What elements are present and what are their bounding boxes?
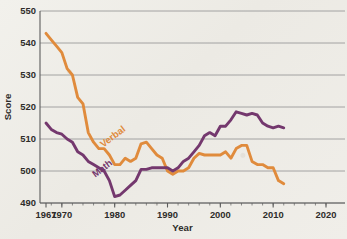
x-tick-label-2020: 2020 [316, 209, 337, 220]
y-tick-label-520: 520 [20, 101, 36, 112]
series-label-math: Math [90, 157, 115, 179]
gridlines [40, 11, 345, 203]
x-tick-label-1980: 1980 [104, 209, 125, 220]
y-axis-title: Score [2, 94, 13, 121]
x-tick-label-1990: 1990 [157, 209, 178, 220]
y-tick-label-540: 540 [20, 37, 36, 48]
sat-scores-line-chart: 1967197019801990200020102020490500510520… [0, 0, 347, 239]
y-tick-labels: 490500510520530540550 [20, 5, 36, 208]
y-tick-label-530: 530 [20, 69, 36, 80]
x-tick-label-2000: 2000 [210, 209, 231, 220]
y-tick-label-550: 550 [20, 5, 36, 16]
x-tick-label-2010: 2010 [263, 209, 284, 220]
y-tick-label-500: 500 [20, 165, 36, 176]
data-series [46, 33, 284, 196]
y-tick-label-490: 490 [20, 197, 36, 208]
series-line-math [46, 112, 284, 197]
series-label-verbal: Verbal [98, 123, 128, 149]
chart-figure: 1967197019801990200020102020490500510520… [0, 0, 347, 239]
series-line-verbal [46, 33, 284, 183]
x-axis-title: Year [172, 222, 193, 233]
x-tick-label-1970: 1970 [51, 209, 72, 220]
y-tick-label-510: 510 [20, 133, 36, 144]
x-tick-marks: 1967197019801990200020102020 [36, 203, 337, 220]
